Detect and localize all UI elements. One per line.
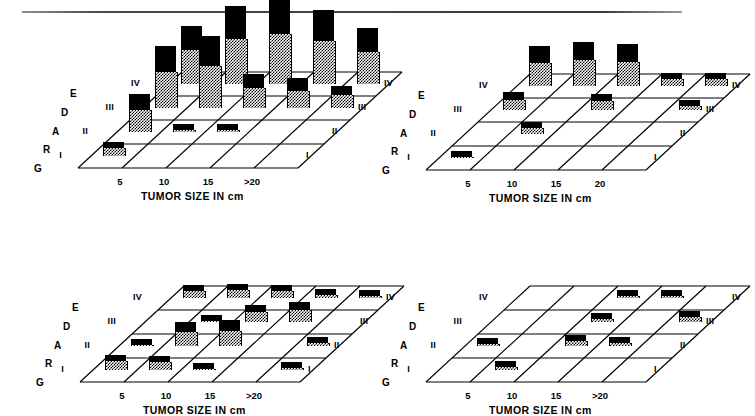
- grade-axis-letter-A: A: [400, 341, 407, 351]
- row-label-right-IV: IV: [384, 79, 393, 88]
- row-label-left-IV: IV: [479, 81, 488, 90]
- bar: [217, 124, 238, 132]
- row-label-left-IV: IV: [131, 79, 140, 88]
- bar: [193, 363, 214, 370]
- bar-shaft: [529, 63, 552, 86]
- bar-shaft: [289, 310, 312, 322]
- bar: [149, 356, 170, 370]
- bar: [565, 335, 586, 346]
- bar-shaft: [193, 369, 216, 370]
- bar: [271, 285, 292, 298]
- bar-cap: [503, 92, 524, 100]
- bar-cap: [331, 86, 352, 95]
- bar: [451, 151, 472, 158]
- bar-shaft: [149, 362, 172, 370]
- grade-axis-letter-E: E: [418, 91, 425, 101]
- bar: [199, 36, 220, 108]
- x-tick-3: 15: [205, 391, 216, 401]
- row-label-right-IV: IV: [732, 293, 741, 302]
- row-label-right-II: II: [332, 127, 338, 136]
- bar-cap: [591, 313, 612, 319]
- x-tick-1: 5: [119, 391, 124, 401]
- bar-shaft: [103, 148, 126, 156]
- grade-axis-letter-E: E: [72, 303, 79, 313]
- grade-axis-letter-E: E: [418, 303, 425, 313]
- bar: [103, 142, 124, 156]
- bar: [219, 320, 240, 346]
- bar-cap: [271, 285, 292, 291]
- bar-cap: [129, 94, 150, 110]
- bar: [307, 337, 328, 346]
- bar-cap: [307, 337, 328, 343]
- bar: [591, 313, 612, 322]
- x-axis-caption: TUMOR SIZE IN cm: [489, 405, 592, 416]
- bar: [331, 86, 352, 108]
- bar-shaft: [609, 343, 632, 346]
- grade-axis-letter-G: G: [34, 164, 42, 174]
- bar-shaft: [705, 79, 728, 86]
- bar-shaft: [271, 291, 294, 298]
- bar: [175, 322, 196, 346]
- row-label-right-IV: IV: [732, 81, 741, 90]
- x-tick-4: >20: [246, 391, 262, 401]
- x-tick-2: 10: [507, 391, 518, 401]
- bar: [287, 78, 308, 108]
- bar-cap: [225, 6, 246, 39]
- bar: [155, 46, 176, 108]
- row-label-right-I: I: [306, 151, 309, 160]
- bar-cap: [199, 36, 220, 66]
- bar-shaft: [269, 34, 292, 84]
- bar-cap: [173, 124, 194, 130]
- bar: [173, 124, 194, 132]
- bar: [661, 73, 682, 86]
- row-label-left-IV: IV: [479, 293, 488, 302]
- bar-shaft: [199, 66, 222, 108]
- bar-cap: [219, 320, 240, 331]
- bar: [131, 339, 152, 346]
- bar-cap: [617, 290, 638, 296]
- x-tick-2: 10: [159, 177, 170, 187]
- bar: [105, 355, 126, 370]
- grade-axis-letter-R: R: [45, 359, 52, 369]
- bar: [183, 285, 204, 298]
- bar-cap: [281, 362, 302, 368]
- bar-shaft: [315, 295, 338, 298]
- bar: [359, 290, 380, 298]
- bar-shaft: [477, 344, 500, 346]
- bar-shaft: [661, 296, 684, 298]
- bar-cap: [705, 73, 726, 79]
- bar: [281, 362, 302, 370]
- bar: [573, 42, 594, 86]
- bar: [313, 10, 334, 84]
- grade-axis-letter-G: G: [382, 166, 390, 176]
- row-label-left-III: III: [106, 103, 114, 112]
- x-tick-1: 5: [465, 179, 470, 189]
- row-label-left-III: III: [108, 317, 116, 326]
- bar-cap: [149, 356, 170, 362]
- bar-shaft: [617, 62, 640, 86]
- bar-shaft: [183, 291, 206, 298]
- bar-shaft: [175, 332, 198, 346]
- grade-axis-letter-G: G: [36, 378, 44, 388]
- x-tick-1: 5: [465, 391, 470, 401]
- bar-cap: [245, 305, 266, 312]
- x-tick-4: >20: [244, 177, 260, 187]
- row-label-left-I: I: [407, 153, 410, 162]
- row-label-left-I: I: [407, 365, 410, 374]
- bar-shaft: [521, 128, 544, 134]
- row-label-right-II: II: [334, 341, 340, 350]
- bar-shaft: [131, 345, 154, 346]
- row-label-right-II: II: [680, 129, 686, 138]
- grade-axis-letter-R: R: [391, 147, 398, 157]
- row-label-right-I: I: [654, 153, 657, 162]
- bar-shaft: [495, 367, 518, 370]
- bar-shaft: [331, 95, 354, 108]
- grade-axis-letter-R: R: [391, 359, 398, 369]
- bar-cap: [661, 290, 682, 296]
- bar-shaft: [129, 110, 152, 132]
- x-tick-3: 15: [551, 391, 562, 401]
- bar: [129, 94, 150, 132]
- bar: [225, 6, 246, 84]
- bar-cap: [175, 322, 196, 332]
- bar-shaft: [219, 331, 242, 346]
